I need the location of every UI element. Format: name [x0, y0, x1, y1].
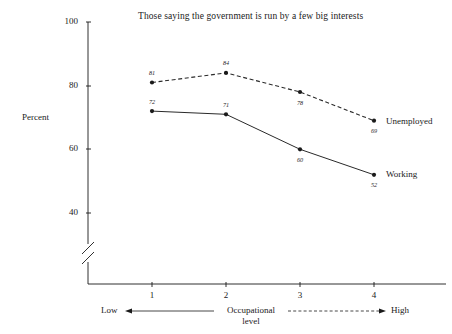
axis-note-low: Low	[101, 306, 118, 315]
data-label-working-4: 52	[365, 182, 383, 188]
data-point-unemployed-3	[298, 90, 302, 94]
data-point-working-1	[150, 109, 154, 113]
series-label-unemployed: Unemployed	[386, 117, 433, 126]
data-label-unemployed-3: 78	[291, 100, 309, 106]
data-point-working-2	[224, 112, 228, 116]
y-tick-label-80: 80	[52, 81, 78, 90]
data-label-unemployed-1: 81	[143, 70, 161, 76]
axis-note-arrow-right	[379, 308, 386, 313]
axis-note-arrow-left	[125, 308, 132, 313]
data-label-working-3: 60	[291, 157, 309, 163]
data-point-unemployed-1	[150, 80, 154, 84]
axis-note-occupational: Occupational	[206, 306, 296, 315]
chart-title: Those saying the government is run by a …	[138, 12, 363, 22]
y-tick-label-40: 40	[52, 208, 78, 217]
data-label-working-2: 71	[217, 102, 235, 108]
axis-note-high: High	[391, 306, 409, 315]
data-label-unemployed-4: 69	[365, 128, 383, 134]
data-label-working-1: 72	[143, 99, 161, 105]
data-point-unemployed-4	[372, 119, 376, 123]
series-line-unemployed	[152, 73, 374, 121]
x-tick-label-3: 3	[290, 291, 310, 300]
chart-container: Those saying the government is run by a …	[0, 0, 452, 334]
series-label-working: Working	[386, 170, 417, 179]
x-tick-label-2: 2	[216, 291, 236, 300]
data-point-unemployed-2	[224, 71, 228, 75]
data-point-working-4	[372, 173, 376, 177]
data-point-working-3	[298, 147, 302, 151]
x-tick-label-4: 4	[364, 291, 384, 300]
series-line-working	[152, 111, 374, 175]
y-axis-label: Percent	[22, 113, 49, 122]
data-label-unemployed-2: 84	[217, 60, 235, 66]
line-chart-canvas	[0, 0, 452, 334]
axis-note-level: level	[206, 317, 296, 326]
y-tick-label-100: 100	[52, 17, 78, 26]
y-tick-label-60: 60	[52, 144, 78, 153]
x-tick-label-1: 1	[142, 291, 162, 300]
